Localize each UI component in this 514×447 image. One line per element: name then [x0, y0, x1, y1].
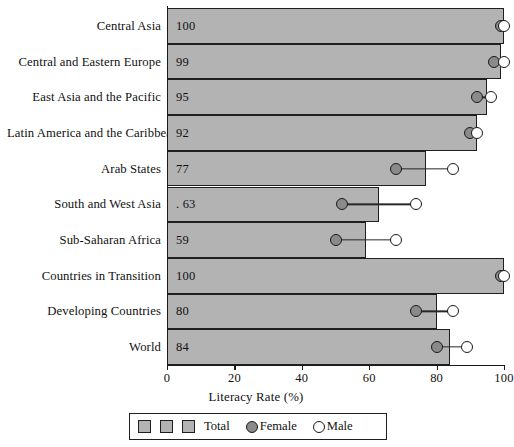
- female-marker: [471, 91, 483, 103]
- bar-value-label: . 63: [176, 197, 196, 212]
- category-label: Latin America and the Caribbean: [7, 125, 167, 140]
- gender-connector-line: [342, 204, 416, 205]
- bar-row: 77: [167, 151, 504, 187]
- x-tick-label: 0: [164, 371, 170, 386]
- female-marker: [390, 163, 402, 175]
- x-tick-label: 40: [295, 371, 308, 386]
- legend-swatch-1: [138, 420, 151, 433]
- male-marker: [410, 198, 422, 210]
- legend-swatch-3: [182, 420, 195, 433]
- legend-label-total: Total: [204, 419, 230, 434]
- female-marker: [431, 341, 443, 353]
- x-tick: [369, 365, 370, 370]
- female-marker: [336, 198, 348, 210]
- total-bar: [167, 151, 426, 187]
- male-marker: [498, 56, 510, 68]
- x-tick: [437, 365, 438, 370]
- x-tick-label: 100: [494, 371, 513, 386]
- male-marker: [498, 20, 510, 32]
- legend-label-female: Female: [260, 419, 297, 434]
- plot-area: 10099959277. 63591008084: [167, 8, 504, 365]
- bar-value-label: 84: [176, 340, 189, 355]
- total-bar: [167, 294, 437, 330]
- bar-row: 84: [167, 329, 504, 365]
- bar-row: 92: [167, 115, 504, 151]
- gender-connector-line: [336, 239, 397, 240]
- x-tick: [167, 365, 168, 370]
- legend-marker-male: [313, 421, 325, 433]
- bar-row: 100: [167, 258, 504, 294]
- category-label: Sub-Saharan Africa: [7, 233, 167, 248]
- x-axis-line: [167, 365, 505, 366]
- legend-swatch-2: [160, 420, 173, 433]
- bar-row: 59: [167, 222, 504, 258]
- male-marker: [447, 163, 459, 175]
- category-label: Central and Eastern Europe: [7, 54, 167, 69]
- x-tick-label: 20: [228, 371, 241, 386]
- x-axis-title: Literacy Rate (%): [0, 390, 512, 405]
- legend-label-male: Male: [327, 419, 353, 434]
- bar-value-label: 80: [176, 304, 189, 319]
- bar-value-label: 92: [176, 125, 189, 140]
- legend-marker-female: [246, 421, 258, 433]
- gender-connector-line: [396, 168, 453, 169]
- x-tick: [504, 365, 505, 370]
- total-bar: [167, 258, 504, 294]
- category-label: Central Asia: [7, 18, 167, 33]
- category-label: East Asia and the Pacific: [7, 90, 167, 105]
- total-bar: [167, 8, 504, 44]
- male-marker: [485, 91, 497, 103]
- bar-value-label: 59: [176, 233, 189, 248]
- category-label: South and West Asia: [7, 197, 167, 212]
- category-label: Countries in Transition: [7, 268, 167, 283]
- bar-value-label: 95: [176, 90, 189, 105]
- y-axis-line: [167, 6, 168, 367]
- total-bar: [167, 329, 450, 365]
- bar-row: 100: [167, 8, 504, 44]
- bar-value-label: 99: [176, 54, 189, 69]
- x-tick: [302, 365, 303, 370]
- male-marker: [498, 270, 510, 282]
- male-marker: [471, 127, 483, 139]
- bar-value-label: 77: [176, 161, 189, 176]
- bar-value-label: 100: [176, 268, 195, 283]
- total-bar: [167, 115, 477, 151]
- bar-row: 99: [167, 44, 504, 80]
- bar-row: . 63: [167, 187, 504, 223]
- category-label: Developing Countries: [7, 304, 167, 319]
- bar-row: 80: [167, 294, 504, 330]
- x-tick: [234, 365, 235, 370]
- total-bar: [167, 44, 501, 80]
- x-tick-label: 60: [363, 371, 376, 386]
- category-label: World: [7, 340, 167, 355]
- bar-row: 95: [167, 79, 504, 115]
- category-label: Arab States: [7, 161, 167, 176]
- female-marker: [330, 234, 342, 246]
- chart-legend: Total Female Male: [129, 413, 387, 440]
- total-bar: [167, 79, 487, 115]
- male-marker: [447, 305, 459, 317]
- male-marker: [461, 341, 473, 353]
- y-axis-category-labels: Central AsiaCentral and Eastern EuropeEa…: [0, 8, 167, 365]
- x-tick-label: 80: [430, 371, 443, 386]
- female-marker: [410, 305, 422, 317]
- male-marker: [390, 234, 402, 246]
- bar-value-label: 100: [176, 18, 195, 33]
